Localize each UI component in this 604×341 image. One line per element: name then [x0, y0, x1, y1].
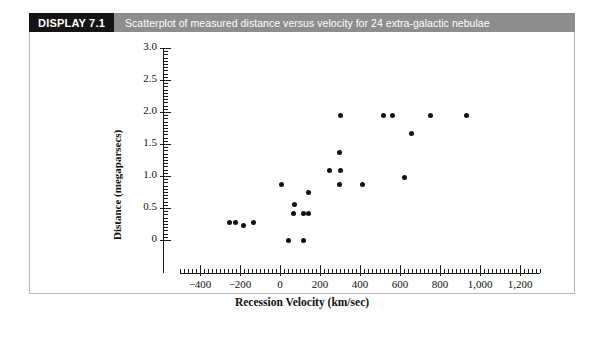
- chart-frame: [29, 32, 575, 294]
- display-number-tag: DISPLAY 7.1: [29, 13, 114, 32]
- display-figure: DISPLAY 7.1 Scatterplot of measured dist…: [0, 0, 604, 341]
- figure-caption: Scatterplot of measured distance versus …: [114, 13, 575, 32]
- x-axis-title: Recession Velocity (km/sec): [0, 296, 604, 308]
- figure-header: DISPLAY 7.1 Scatterplot of measured dist…: [29, 13, 575, 32]
